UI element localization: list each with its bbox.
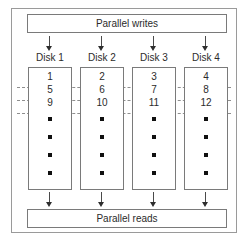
block-cell: 11	[133, 96, 175, 109]
square-bullet-icon	[48, 117, 52, 121]
continuation-bullet	[185, 130, 227, 143]
read-arrow-disk-3	[150, 192, 157, 207]
square-bullet-icon	[204, 135, 208, 139]
square-bullet-icon	[204, 153, 208, 157]
write-arrow-disk-2	[98, 36, 105, 51]
down-arrow-icon	[202, 202, 208, 207]
square-bullet-icon	[152, 117, 156, 121]
write-arrow-disk-3	[150, 36, 157, 51]
square-bullet-icon	[48, 171, 52, 175]
disk-label-4: Disk 4	[184, 52, 228, 64]
down-arrow-icon	[98, 202, 104, 207]
square-bullet-icon	[100, 153, 104, 157]
continuation-bullet	[185, 112, 227, 125]
square-bullet-icon	[152, 171, 156, 175]
continuation-bullet	[29, 130, 71, 143]
disk-label-2: Disk 2	[80, 52, 124, 64]
parallel-reads-box: Parallel reads	[27, 209, 227, 228]
disk-label-3: Disk 3	[132, 52, 176, 64]
square-bullet-icon	[204, 117, 208, 121]
read-arrow-disk-1	[46, 192, 53, 207]
parallel-writes-label: Parallel writes	[96, 19, 158, 29]
down-arrow-icon	[98, 46, 104, 51]
continuation-bullet	[81, 130, 123, 143]
square-bullet-icon	[204, 171, 208, 175]
continuation-bullet	[133, 112, 175, 125]
continuation-bullet	[81, 148, 123, 161]
continuation-bullet	[133, 166, 175, 179]
continuation-bullet	[185, 166, 227, 179]
continuation-bullet	[81, 112, 123, 125]
down-arrow-icon	[150, 202, 156, 207]
disk-box-2: 2 6 10	[80, 67, 124, 190]
disk-label-1: Disk 1	[28, 52, 72, 64]
continuation-bullet	[133, 148, 175, 161]
continuation-bullet	[81, 166, 123, 179]
read-arrow-disk-4	[202, 192, 209, 207]
write-arrow-disk-1	[46, 36, 53, 51]
square-bullet-icon	[48, 153, 52, 157]
square-bullet-icon	[100, 171, 104, 175]
continuation-bullet	[185, 148, 227, 161]
block-cell: 5	[29, 83, 71, 96]
square-bullet-icon	[152, 153, 156, 157]
block-cell: 7	[133, 83, 175, 96]
disk-box-1: 1 5 9	[28, 67, 72, 190]
block-cell: 12	[185, 96, 227, 109]
raid-striping-diagram: Parallel writes Disk 1 Disk 2 Disk 3 Dis…	[0, 0, 245, 243]
down-arrow-icon	[202, 46, 208, 51]
square-bullet-icon	[152, 135, 156, 139]
block-cell: 9	[29, 96, 71, 109]
square-bullet-icon	[100, 117, 104, 121]
down-arrow-icon	[150, 46, 156, 51]
square-bullet-icon	[48, 135, 52, 139]
continuation-bullet	[29, 148, 71, 161]
continuation-bullet	[133, 130, 175, 143]
block-cell: 3	[133, 70, 175, 83]
write-arrow-disk-4	[202, 36, 209, 51]
block-cell: 1	[29, 70, 71, 83]
block-cell: 10	[81, 96, 123, 109]
block-cell: 2	[81, 70, 123, 83]
block-cell: 8	[185, 83, 227, 96]
parallel-reads-label: Parallel reads	[96, 214, 157, 224]
down-arrow-icon	[46, 46, 52, 51]
continuation-bullet	[29, 166, 71, 179]
down-arrow-icon	[46, 202, 52, 207]
disk-box-4: 4 8 12	[184, 67, 228, 190]
block-cell: 6	[81, 83, 123, 96]
continuation-bullet	[29, 112, 71, 125]
disk-box-3: 3 7 11	[132, 67, 176, 190]
parallel-writes-box: Parallel writes	[27, 14, 227, 33]
block-cell: 4	[185, 70, 227, 83]
square-bullet-icon	[100, 135, 104, 139]
read-arrow-disk-2	[98, 192, 105, 207]
